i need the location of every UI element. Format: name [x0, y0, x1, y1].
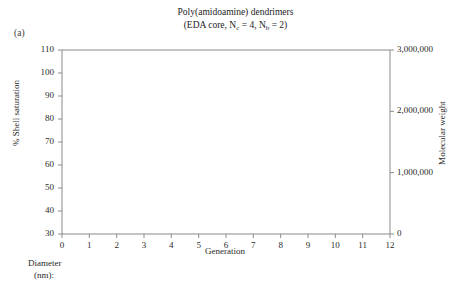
y-tick-label-left: 100 — [28, 67, 54, 77]
y-tick-label-right: 1,000,000 — [397, 167, 467, 177]
x-tick-label: 9 — [296, 240, 320, 250]
axes-group — [58, 50, 394, 238]
y-tick-label-right: 2,000,000 — [397, 105, 467, 115]
x-tick-label: 10 — [323, 240, 347, 250]
x-tick-label: 1 — [77, 240, 101, 250]
x-tick-label: 6 — [214, 240, 238, 250]
diameter-label-line1: Diameter — [28, 258, 61, 268]
y-tick-label-left: 40 — [28, 205, 54, 215]
y-tick-label-right: 3,000,000 — [397, 44, 467, 54]
y-tick-label-left: 60 — [28, 159, 54, 169]
y-tick-label-left: 50 — [28, 182, 54, 192]
figure-panel: (a) Poly(amidoamine) dendrimers (EDA cor… — [0, 0, 471, 291]
x-tick-label: 5 — [187, 240, 211, 250]
y-tick-label-left: 30 — [28, 228, 54, 238]
y-tick-label-left: 90 — [28, 90, 54, 100]
x-tick-label: 7 — [241, 240, 265, 250]
y-tick-label-left: 70 — [28, 136, 54, 146]
y-tick-label-left: 80 — [28, 113, 54, 123]
y-tick-label-left: 110 — [28, 44, 54, 54]
x-tick-label: 8 — [269, 240, 293, 250]
x-tick-label: 11 — [351, 240, 375, 250]
x-tick-label: 2 — [105, 240, 129, 250]
y-tick-label-right: 0 — [397, 228, 467, 238]
diameter-label-line2: (nm): — [34, 270, 54, 280]
x-tick-label: 12 — [378, 240, 402, 250]
x-tick-label: 4 — [159, 240, 183, 250]
x-tick-label: 3 — [132, 240, 156, 250]
x-tick-label: 0 — [50, 240, 74, 250]
